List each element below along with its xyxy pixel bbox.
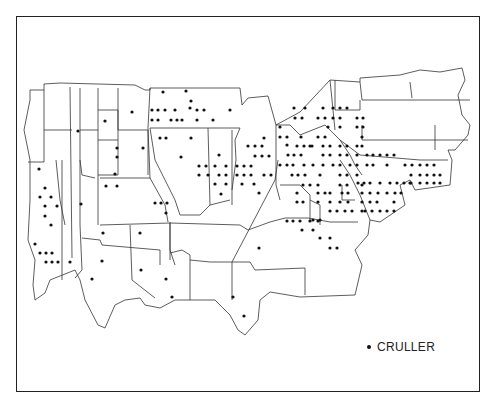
cruller-dot (368, 181, 371, 184)
cruller-dot (44, 260, 47, 263)
cruller-dot (189, 136, 192, 139)
county-boundaries (24, 68, 470, 335)
cruller-dot (240, 182, 243, 185)
cruller-dot (393, 191, 396, 194)
cruller-dot (115, 146, 118, 149)
cruller-dot (338, 163, 341, 166)
cruller-dot (343, 209, 346, 212)
cruller-dot (295, 200, 298, 203)
cruller-dot (328, 144, 331, 147)
cruller-dot (50, 260, 53, 263)
cruller-dot (345, 106, 348, 109)
cruller-dot (33, 242, 36, 245)
cruller-dot (331, 106, 334, 109)
boundary-line (362, 125, 468, 140)
cruller-dot (104, 184, 107, 187)
cruller-dot (153, 201, 156, 204)
cruller-dot (49, 195, 52, 198)
cruller-dot (169, 118, 172, 121)
cruller-dot (163, 108, 166, 111)
boundary-line (410, 82, 412, 98)
cruller-dot (355, 173, 358, 176)
cruller-dot (113, 172, 116, 175)
boundary-line (100, 223, 170, 260)
cruller-dot (323, 135, 326, 138)
cruller-dot (228, 108, 231, 111)
cruller-dot (311, 163, 314, 166)
boundary-line (335, 80, 360, 110)
cruller-dot (425, 173, 428, 176)
cruller-dot (345, 173, 348, 176)
cruller-dot (292, 106, 295, 109)
boundary-line (340, 140, 448, 160)
cruller-dot (321, 144, 324, 147)
cruller-dot (425, 163, 428, 166)
cruller-dot (150, 108, 153, 111)
cruller-dot (231, 295, 234, 298)
cruller-dot (246, 144, 249, 147)
cruller-dot (257, 191, 260, 194)
cruller-dot (346, 191, 349, 194)
cruller-dot (195, 108, 198, 111)
cruller-dot (269, 173, 272, 176)
cruller-dot (211, 118, 214, 121)
cruller-dot (260, 154, 263, 157)
cruller-dot (345, 144, 348, 147)
cruller-dot (301, 200, 304, 203)
cruller-dot (392, 209, 395, 212)
cruller-dot (242, 314, 245, 317)
cruller-dot (403, 163, 406, 166)
dot-icon (367, 345, 371, 349)
boundary-line (98, 110, 118, 175)
cruller-dot (291, 163, 294, 166)
cruller-dot (295, 191, 298, 194)
cruller-dot (43, 186, 46, 189)
cruller-dot (79, 202, 82, 205)
cruller-dot (285, 163, 288, 166)
cruller-dot (328, 236, 331, 239)
cruller-dot (321, 163, 324, 166)
cruller-dot (68, 260, 71, 263)
boundary-line (170, 222, 175, 265)
cruller-dot (253, 144, 256, 147)
boundary-line (248, 218, 358, 230)
cruller-dot (399, 191, 402, 194)
cruller-dot (38, 195, 41, 198)
cruller-dot (303, 106, 306, 109)
cruller-dot (213, 182, 216, 185)
cruller-dot (219, 192, 222, 195)
cruller-dot (316, 191, 319, 194)
cruller-dot (278, 135, 281, 138)
cruller-dot (101, 231, 104, 234)
boundary-line (82, 238, 160, 265)
cruller-dot (371, 163, 374, 166)
cruller-dot (291, 219, 294, 222)
cruller-dot (202, 108, 205, 111)
cruller-dot (43, 204, 46, 207)
cruller-dot (293, 116, 296, 119)
cruller-dot (260, 144, 263, 147)
cruller-dot (115, 184, 118, 187)
cruller-dot (418, 181, 421, 184)
legend: CRULLER (367, 340, 435, 354)
cruller-dot (38, 251, 41, 254)
cruller-dot (257, 246, 260, 249)
boundary-line (280, 185, 310, 220)
cruller-dot (378, 153, 381, 156)
cruller-dot (303, 173, 306, 176)
boundary-line (70, 87, 72, 258)
cruller-dot (385, 163, 388, 166)
cruller-dot (235, 173, 238, 176)
cruller-dot (316, 116, 319, 119)
cruller-dot (301, 183, 304, 186)
cruller-dot (300, 116, 303, 119)
cruller-dot (409, 173, 412, 176)
cruller-dot (355, 163, 358, 166)
cruller-dot (376, 191, 379, 194)
cruller-dot (286, 153, 289, 156)
cruller-dot (321, 106, 324, 109)
cruller-dot (338, 116, 341, 119)
cruller-dot (326, 125, 329, 128)
cruller-dot (252, 182, 255, 185)
cruller-dot (56, 260, 59, 263)
